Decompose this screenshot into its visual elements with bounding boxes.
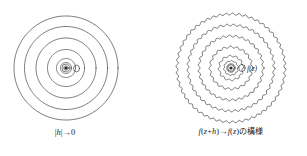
caption-limit-zero: 0 — [71, 128, 75, 137]
caption-japanese-moyou: の構様 — [239, 127, 263, 136]
figure-page: |h|→0 f(z) f(z+h)→f(z)の構様 — [0, 0, 307, 156]
wavy-concentric-rings-diagram: f(z) — [151, 0, 307, 126]
right-figure-caption: f(z+h)→f(z)の構様 — [198, 127, 263, 137]
caption-arrow-icon-2: → — [219, 127, 227, 136]
right-figure-inline-label: f(z) — [247, 64, 258, 73]
left-figure-satellite-bubble — [74, 65, 80, 72]
left-figure-block: |h|→0 — [0, 0, 135, 137]
left-figure-centre-dot — [64, 66, 67, 69]
figure-pair: |h|→0 f(z) f(z+h)→f(z)の構様 — [0, 0, 307, 156]
right-figure-block: f(z) f(z+h)→f(z)の構様 — [151, 0, 307, 137]
right-figure-centre-dot — [229, 66, 232, 69]
left-figure-caption: |h|→0 — [55, 128, 76, 137]
smooth-concentric-rings-diagram — [0, 0, 135, 126]
caption-arrow-icon: → — [63, 128, 71, 137]
